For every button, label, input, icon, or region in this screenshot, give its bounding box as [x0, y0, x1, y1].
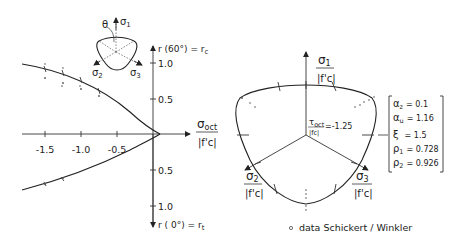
y-tick-label: 1.0: [158, 58, 173, 69]
svg-text:ρ1= 0.728: ρ1= 0.728: [393, 143, 439, 156]
svg-text:θ: θ: [102, 19, 108, 30]
svg-text:ξ= 1.5: ξ= 1.5: [393, 129, 427, 140]
x-tick-label: -1.5: [36, 144, 55, 155]
param-row: αz= 0.1: [393, 98, 428, 111]
tau-oct-label: τoct |fc| =-1.25: [308, 117, 352, 137]
svg-text:|f'c|: |f'c|: [198, 137, 217, 149]
legend: data Schickert / Winkler: [289, 222, 412, 233]
svg-text:ρ2= 0.926: ρ2= 0.926: [393, 157, 439, 170]
x-tick-label: -1.0: [72, 144, 91, 155]
sigma2-axis: [245, 135, 306, 170]
x-tick-label: -0.5: [108, 144, 127, 155]
param-row: ρ2= 0.926: [393, 157, 439, 170]
sigma2-label: σ2 |f'c|: [244, 169, 264, 200]
y-tick-label: 0.5: [158, 165, 173, 176]
y-tick-label: 1.0: [158, 201, 173, 212]
svg-text:αu= 1.16: αu= 1.16: [393, 112, 434, 125]
svg-text:|f'c|: |f'c|: [317, 73, 336, 85]
legend-marker-icon: [289, 226, 292, 229]
y-tick-label: 0.5: [158, 94, 173, 105]
x-axis-label: σoct |f'c|: [196, 117, 218, 149]
legend-text: data Schickert / Winkler: [299, 222, 412, 233]
sigma3-axis: [306, 135, 368, 170]
param-row: αu= 1.16: [393, 112, 434, 125]
svg-text:σ2: σ2: [92, 67, 103, 80]
param-row: ρ1= 0.728: [393, 143, 439, 156]
inset-deviatoric-sketch: θ σ1 σ2 σ3: [92, 16, 142, 80]
left-meridian-plot: -1.5 -1.0 -0.5 1.0 0.5 0.5 1.0 r (60°) =…: [22, 16, 218, 232]
parameter-box: αz= 0.1 αu= 1.16 ξ= 1.5 ρ1= 0.728 ρ2= 0.…: [389, 96, 443, 172]
svg-text:=-1.25: =-1.25: [325, 122, 352, 131]
svg-text:σ3: σ3: [356, 169, 369, 184]
svg-text:σ3: σ3: [130, 67, 141, 80]
svg-text:|f'c|: |f'c|: [354, 188, 373, 200]
svg-text:|f'c|: |f'c|: [245, 188, 264, 200]
svg-text:|fc|: |fc|: [309, 129, 319, 137]
param-row: ξ= 1.5: [393, 129, 427, 140]
y-up-axis-label: r (60°) = rc: [158, 44, 209, 56]
y-down-axis-label: r ( 0°) = rt: [158, 220, 205, 232]
svg-text:σ1: σ1: [120, 16, 131, 29]
svg-text:σ1: σ1: [318, 53, 331, 68]
svg-text:σoct: σoct: [197, 117, 217, 132]
tensile-meridian-curve: [22, 134, 160, 190]
sigma1-label: σ1 |f'c|: [316, 53, 336, 85]
sigma3-label: σ3 |f'c|: [352, 169, 373, 200]
right-deviatoric-plot: σ1 |f'c| σ2 |f'c| σ3 |f'c| τoct |fc| =-1…: [236, 52, 388, 211]
svg-text:αz= 0.1: αz= 0.1: [393, 98, 428, 111]
figure-canvas: -1.5 -1.0 -0.5 1.0 0.5 0.5 1.0 r (60°) =…: [0, 0, 465, 243]
